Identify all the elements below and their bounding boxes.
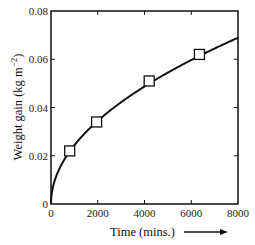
y-axis-label: Weight gain (kg m−2) [9,54,25,161]
x-tick-label: 6000 [180,207,203,219]
y-tick-label: 0.08 [29,5,49,17]
square-marker-icon [92,117,102,127]
plot-frame [51,11,238,204]
y-tick-label: 0 [43,198,49,210]
square-marker-icon [194,49,204,59]
axis-ticks [51,11,238,204]
fit-curve [51,38,238,204]
axis-tick-labels: 0200040006000800000.020.040.060.08 [29,5,250,219]
y-tick-label: 0.06 [29,53,49,65]
x-tick-label: 2000 [87,207,110,219]
x-axis-arrow-icon [184,229,228,235]
x-tick-label: 4000 [134,207,157,219]
plot-border [51,11,238,204]
y-tick-label: 0.02 [29,150,48,162]
fit-line [51,38,238,204]
weight-gain-chart: 0200040006000800000.020.040.060.08 Weigh… [0,0,255,245]
square-marker-icon [144,76,154,86]
square-marker-icon [65,146,75,156]
y-tick-label: 0.04 [29,102,49,114]
x-tick-label: 8000 [227,207,250,219]
x-tick-label: 0 [48,207,54,219]
x-axis-label: Time (mins.) [110,225,175,239]
data-markers [65,49,205,156]
